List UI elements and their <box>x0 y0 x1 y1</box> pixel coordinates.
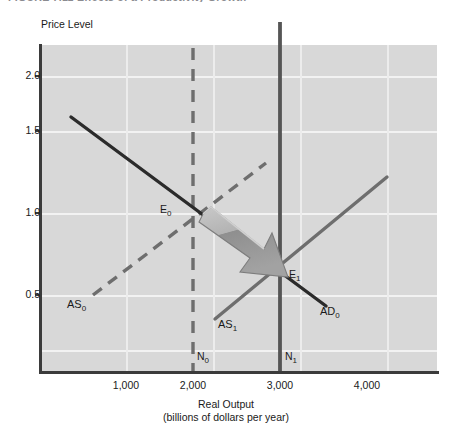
curve-label-as0-sub: 0 <box>82 304 86 313</box>
e0-sub: 0 <box>167 209 171 218</box>
y-tick-label: 0.5 <box>0 288 40 300</box>
n0-text: N <box>197 350 205 362</box>
curve-label-as0-text: AS <box>67 298 82 310</box>
x-tick-label: 3,000 <box>250 379 310 391</box>
curve-as0 <box>93 163 266 295</box>
x-tick-label: 4,000 <box>337 379 397 391</box>
y-tick-label: 1.0 <box>0 206 40 218</box>
axis-marker-label-n0: N0 <box>197 350 209 365</box>
curve-label-ad0-sub: 0 <box>335 311 339 320</box>
axis-marker-label-n1: N1 <box>285 350 297 365</box>
y-tick-label: 2.0 <box>0 69 40 81</box>
n1-sub: 1 <box>293 356 297 365</box>
curve-label-ad0: AD0 <box>320 305 340 320</box>
x-tick-label: 1,000 <box>96 379 156 391</box>
point-label-e1: E1 <box>289 268 300 283</box>
x-axis-line <box>39 371 439 374</box>
shift-arrow <box>199 207 288 277</box>
n1-text: N <box>285 350 293 362</box>
curve-label-as1-sub: 1 <box>233 324 237 333</box>
curve-label-as1-text: AS <box>218 318 233 330</box>
figure-container: FIGURE 7.11 Effects of a Productivity Gr… <box>0 0 452 426</box>
curve-label-as0: AS0 <box>67 298 86 313</box>
curve-label-as1: AS1 <box>218 318 237 333</box>
e1-sub: 1 <box>296 274 300 283</box>
curves-layer <box>0 0 452 426</box>
x-axis-title: Real Output <box>0 398 452 410</box>
x-tick-label: 2,000 <box>163 379 223 391</box>
point-label-e0: E0 <box>160 203 171 218</box>
curve-label-ad0-text: AD <box>320 305 335 317</box>
n0-sub: 0 <box>205 356 209 365</box>
e1-text: E <box>289 268 296 280</box>
y-tick-label: 1.5 <box>0 124 40 136</box>
x-axis-title-units: (billions of dollars per year) <box>0 411 452 423</box>
e0-text: E <box>160 203 167 215</box>
curve-ad0 <box>71 117 326 306</box>
